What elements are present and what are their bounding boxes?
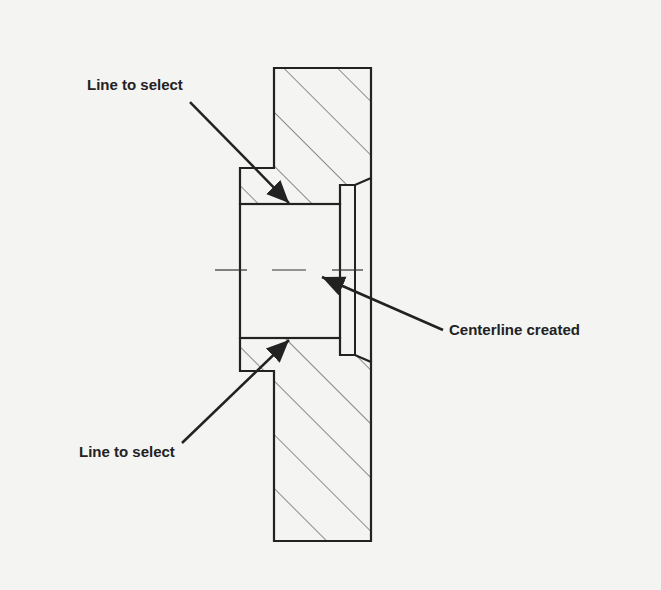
- label-top-line: Line to select: [87, 76, 183, 93]
- bore: [240, 204, 340, 338]
- upper-section: [240, 68, 371, 204]
- label-bottom-line: Line to select: [79, 443, 175, 460]
- label-centerline: Centerline created: [449, 321, 580, 338]
